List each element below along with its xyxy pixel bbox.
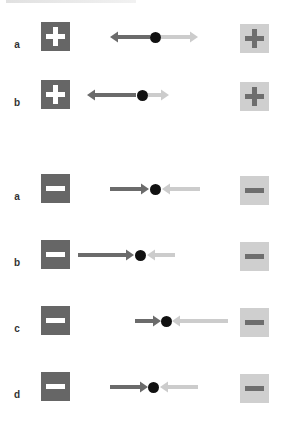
- minus-bar: [245, 320, 264, 325]
- row-label: a: [12, 191, 22, 202]
- minus-icon-light: [240, 176, 269, 205]
- row-label: b: [12, 97, 22, 108]
- minus-bar: [46, 318, 65, 323]
- row-label: d: [12, 389, 22, 400]
- dark-arrow: [135, 315, 161, 327]
- light-arrow: [162, 183, 200, 195]
- plus-vertical-bar: [53, 85, 58, 104]
- minus-icon-dark: [41, 174, 70, 203]
- light-arrow: [160, 381, 198, 393]
- plus-icon-light: [240, 82, 269, 111]
- minus-bar: [245, 188, 264, 193]
- minus-icon-light: [240, 242, 269, 271]
- plus-vertical-bar: [252, 87, 257, 106]
- dark-arrow: [78, 249, 134, 261]
- light-arrow: [148, 89, 169, 101]
- dark-arrow: [110, 183, 149, 195]
- row-label: a: [12, 39, 22, 50]
- minus-bar: [245, 254, 264, 259]
- particle-dot: [148, 382, 159, 393]
- light-arrow: [161, 31, 198, 43]
- minus-icon-dark: [41, 372, 70, 401]
- plus-icon-dark: [41, 22, 70, 51]
- dark-arrow: [110, 381, 148, 393]
- particle-dot: [161, 316, 172, 327]
- plus-vertical-bar: [252, 29, 257, 48]
- particle-dot: [150, 184, 161, 195]
- minus-bar: [245, 386, 264, 391]
- minus-icon-dark: [41, 240, 70, 269]
- light-arrow: [147, 249, 175, 261]
- minus-bar: [46, 384, 65, 389]
- plus-icon-light: [240, 24, 269, 53]
- minus-icon-dark: [41, 306, 70, 335]
- minus-icon-light: [240, 308, 269, 337]
- minus-bar: [46, 252, 65, 257]
- particle-dot: [150, 32, 161, 43]
- plus-icon-dark: [41, 80, 70, 109]
- dark-arrow: [110, 31, 150, 43]
- row-label: c: [12, 323, 22, 334]
- minus-bar: [46, 186, 65, 191]
- light-arrow: [172, 315, 228, 327]
- dark-arrow: [87, 89, 136, 101]
- plus-vertical-bar: [53, 27, 58, 46]
- row-label: b: [12, 257, 22, 268]
- particle-dot: [135, 250, 146, 261]
- minus-icon-light: [240, 374, 269, 403]
- cropped-caption-text: [6, 0, 136, 3]
- particle-dot: [137, 90, 148, 101]
